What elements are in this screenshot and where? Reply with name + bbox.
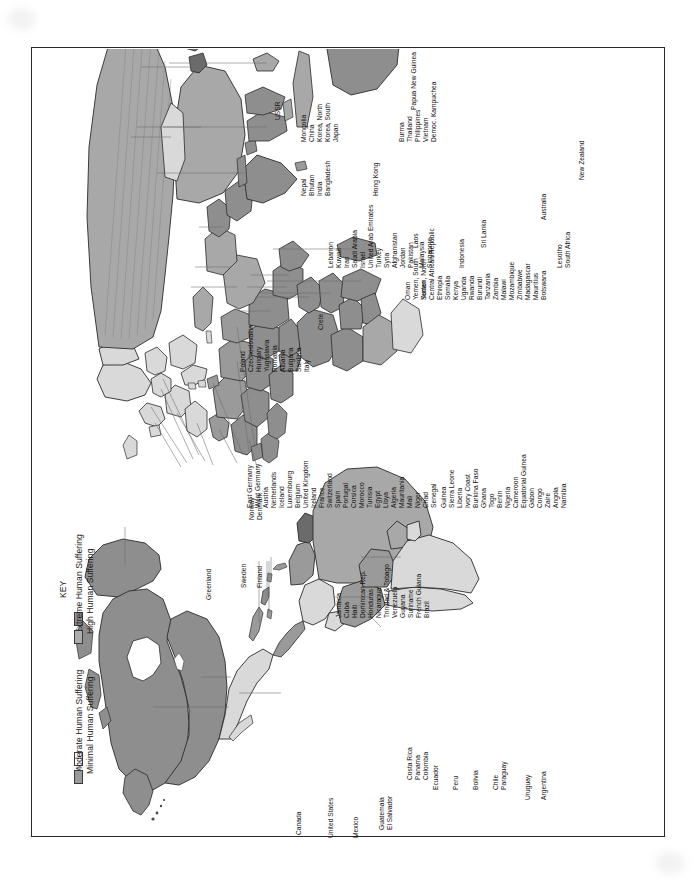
country-south-africa bbox=[391, 299, 423, 353]
country-label-turkey: Turkey bbox=[375, 248, 382, 268]
country-label-belgium: Belgium bbox=[294, 484, 301, 508]
country-label-corsica: Corsica bbox=[350, 485, 357, 508]
country-label-nepal: Nepal bbox=[300, 179, 307, 196]
country-label-jamaica: Jamaica bbox=[335, 593, 342, 618]
country-angola bbox=[331, 327, 363, 371]
country-label-ussr: USSR bbox=[274, 101, 281, 120]
country-label-ivory-coast: Ivory Coast bbox=[464, 474, 471, 508]
country-united-kingdom bbox=[139, 403, 165, 427]
country-label-vietnam: Vietnam bbox=[422, 118, 429, 142]
country-label-colombia: Colombia bbox=[422, 752, 429, 780]
country-label-bhutan: Bhutan bbox=[308, 175, 315, 196]
country-india bbox=[243, 155, 297, 203]
country-label-cameroon: Cameroon bbox=[512, 477, 519, 508]
country-label-mozambique: Mozambique bbox=[508, 262, 515, 300]
country-poland bbox=[145, 347, 167, 375]
country-label-syria: Syria bbox=[383, 253, 390, 268]
country-label-nigeria: Nigeria bbox=[504, 487, 511, 508]
country-label-united-arab-emirates: United Arab Emirates bbox=[367, 205, 374, 268]
page-root: KEY Extreme Human Suffering High Human S… bbox=[0, 0, 696, 883]
country-label-rwanda: Rwanda bbox=[468, 276, 475, 301]
country-label-switzerland: Switzerland bbox=[326, 473, 333, 508]
country-label-canada: Canada bbox=[295, 812, 302, 835]
country-label-bulgaria: Bulgaria bbox=[287, 347, 294, 372]
country-label-albania: Albania bbox=[279, 350, 286, 372]
aleutian-island bbox=[163, 799, 165, 801]
country-label-italy: Italy bbox=[303, 360, 310, 372]
country-label-singapore: Singapore bbox=[426, 237, 433, 268]
country-label-cuba: Cuba bbox=[343, 602, 350, 618]
country-label-crete: Crete bbox=[317, 314, 324, 330]
country-label-peru: Peru bbox=[452, 776, 459, 790]
country-greenland bbox=[85, 539, 161, 597]
island-crete bbox=[206, 331, 212, 343]
country-label-saudi-arabia: Saudi Arabia bbox=[351, 230, 358, 268]
country-label-australia: Australia bbox=[540, 194, 547, 220]
country-label-hungary: Hungary bbox=[255, 347, 262, 372]
country-label-ecuador: Ecuador bbox=[432, 765, 439, 790]
country-label-finland: Finland bbox=[256, 566, 263, 588]
country-label-mali: Mali bbox=[406, 496, 413, 508]
country-label-panama: Panama bbox=[414, 755, 421, 780]
country-label-mauritania: Mauritania bbox=[398, 477, 405, 508]
country-label-namibia: Namibia bbox=[560, 483, 567, 508]
country-label-burkina-faso: Burkina Faso bbox=[472, 469, 479, 508]
country-label-korea-south: Korea, South bbox=[324, 103, 331, 142]
country-label-niger: Niger bbox=[414, 492, 421, 508]
country-label-bangladesh: Bangladesh bbox=[324, 161, 331, 196]
country-label-zaire: Zaire bbox=[544, 493, 551, 508]
country-label-mauritius: Mauritius bbox=[532, 273, 539, 300]
aleutian-island bbox=[151, 817, 154, 820]
country-label-india: India bbox=[316, 181, 323, 196]
country-label-czechoslovakia: Czechoslovakia bbox=[247, 325, 254, 372]
country-spain-portugal bbox=[185, 401, 207, 437]
country-label-mexico: Mexico bbox=[352, 817, 359, 838]
country-label-burundi: Burundi bbox=[476, 277, 483, 300]
country-label-korea-north: Korea, North bbox=[316, 104, 323, 142]
country-label-botswana: Botswana bbox=[540, 271, 547, 300]
island-corsica bbox=[188, 383, 196, 389]
country-label-suriname: Suriname bbox=[407, 589, 414, 618]
country-iceland bbox=[123, 435, 137, 459]
country-australia bbox=[325, 49, 401, 95]
country-label-poland: Poland bbox=[239, 351, 246, 372]
country-label-madagascar: Madagascar bbox=[524, 263, 531, 300]
country-label-mongolia: Mongolia bbox=[300, 115, 307, 142]
scandinavia bbox=[97, 361, 151, 401]
legend-title: KEY bbox=[58, 581, 68, 598]
country-label-china: China bbox=[308, 125, 315, 142]
country-label-guinea: Guinea bbox=[440, 486, 447, 508]
country-label-netherlands: Netherlands bbox=[270, 472, 277, 508]
country-venezuela bbox=[289, 541, 315, 585]
country-label-romania: Romania bbox=[271, 345, 278, 372]
country-label-sierra-leone: Sierra Leone bbox=[448, 470, 455, 508]
country-label-egypt: Egypt bbox=[374, 491, 381, 508]
country-label-sri-lanka: Sri Lanka bbox=[480, 220, 487, 248]
country-label-ghana: Ghana bbox=[480, 488, 487, 508]
country-label-yugoslavia: Yugoslavia bbox=[263, 340, 270, 372]
country-label-lebanon: Lebanon bbox=[327, 242, 334, 268]
country-label-hong-kong: Hong Kong bbox=[372, 163, 379, 196]
paper-smudge bbox=[655, 852, 685, 874]
country-label-spain: Spain bbox=[334, 491, 341, 508]
country-label-french-guiana: French Guiana bbox=[415, 574, 422, 618]
country-label-philippines: Philippines bbox=[414, 110, 421, 142]
country-label-guyana: Guyana bbox=[399, 595, 406, 618]
country-malaysia bbox=[283, 99, 293, 121]
country-label-east-germany: East Germany bbox=[246, 465, 253, 508]
country-label-oman: Oman bbox=[404, 282, 411, 300]
country-label-united-kingdom: United Kingdom bbox=[302, 460, 309, 508]
legend-label-high: High Human Suffering bbox=[85, 549, 95, 634]
country-label-uganda: Uganda bbox=[460, 277, 467, 300]
country-label-guatemala: Guatemala bbox=[378, 797, 385, 830]
legend-label-minimal: Minimal Human Suffering bbox=[85, 676, 95, 774]
country-label-angola: Angola bbox=[552, 487, 559, 508]
legend-label-extreme: Extreme Human Suffering bbox=[74, 534, 84, 634]
country-label-chile: Chile bbox=[492, 775, 499, 790]
country-label-ethiopia: Ethiopia bbox=[436, 276, 443, 300]
country-label-lesotho: Lesotho bbox=[556, 244, 563, 268]
country-label-nicaragua: Nicaragua bbox=[375, 587, 382, 618]
country-somalia bbox=[279, 241, 309, 271]
country-label-jordan: Jordan bbox=[399, 248, 406, 268]
country-turkey bbox=[193, 287, 213, 331]
